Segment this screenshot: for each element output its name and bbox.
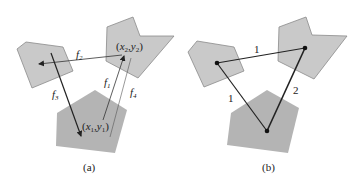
weight-bottom-topright: 2 — [293, 84, 299, 96]
panel-b: 1 1 2 (b) — [188, 17, 347, 174]
label-f4: f4 — [130, 86, 137, 100]
node-left — [215, 61, 220, 66]
region-top-right — [278, 17, 347, 79]
weight-left-topright: 1 — [254, 43, 260, 55]
node-bottom — [265, 129, 270, 134]
point-2-label: (x2,y2) — [116, 40, 143, 54]
label-f3: f3 — [52, 88, 59, 102]
node-top-right — [303, 46, 308, 51]
label-f1: f1 — [104, 76, 111, 90]
caption-a: (a) — [83, 161, 96, 174]
panel-a: f2 f3 f1 f4 (x2,y2) (x1,y1) (a) — [17, 17, 174, 174]
region-left — [17, 42, 73, 88]
label-f2: f2 — [76, 48, 83, 62]
point-1-label: (x1,y1) — [82, 120, 109, 134]
region-bottom — [56, 90, 127, 153]
diagram-canvas: f2 f3 f1 f4 (x2,y2) (x1,y1) (a) 1 1 2 (b… — [0, 0, 363, 188]
caption-b: (b) — [262, 161, 275, 174]
weight-left-bottom: 1 — [228, 92, 234, 104]
region-bottom — [227, 90, 299, 153]
